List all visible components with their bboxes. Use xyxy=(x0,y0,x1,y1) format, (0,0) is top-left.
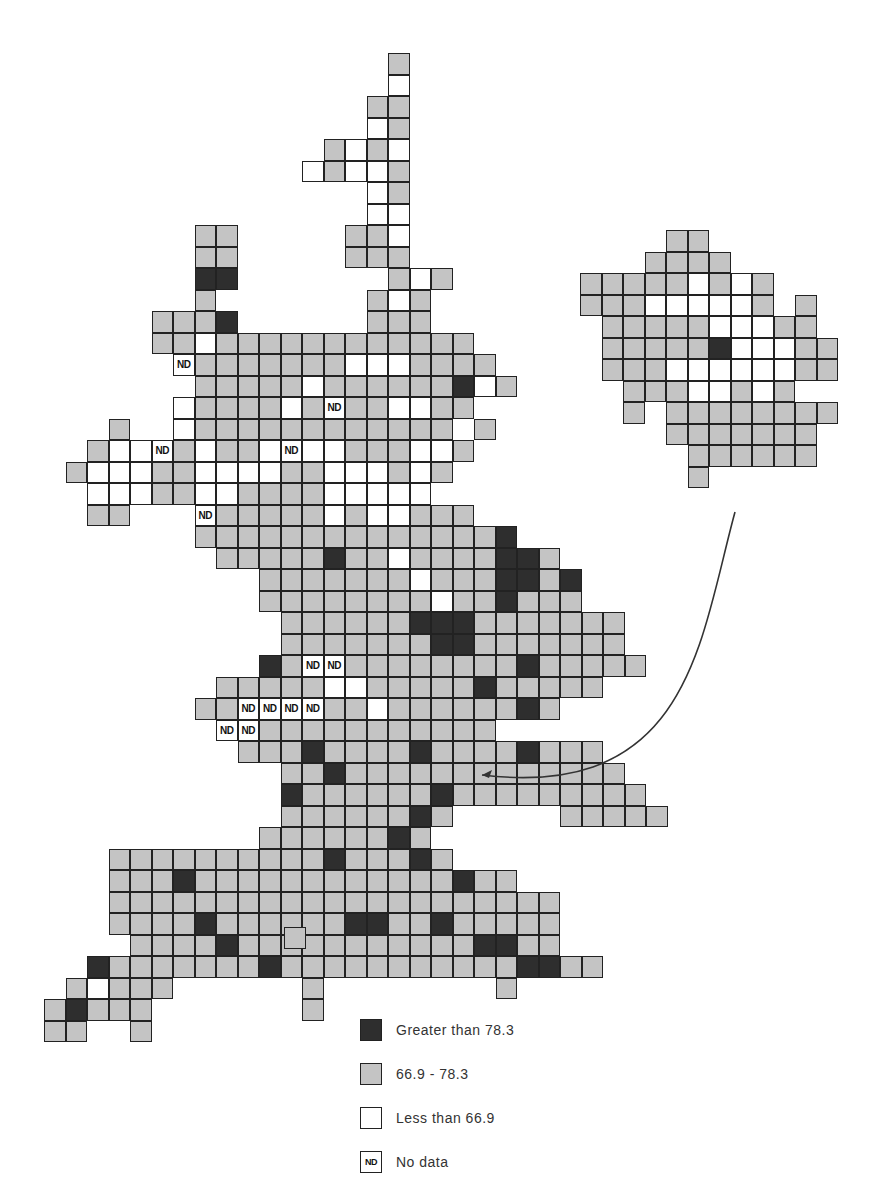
map-cell xyxy=(367,139,389,161)
map-cell xyxy=(496,741,518,763)
map-cell xyxy=(582,806,604,828)
map-cell xyxy=(474,526,496,548)
map-cell xyxy=(367,333,389,355)
map-cell xyxy=(281,419,303,441)
map-cell xyxy=(795,445,817,467)
map-cell xyxy=(259,720,281,742)
map-cell xyxy=(474,354,496,376)
map-cell xyxy=(388,956,410,978)
map-cell xyxy=(388,182,410,204)
map-cell xyxy=(173,440,195,462)
map-cell xyxy=(474,634,496,656)
map-cell xyxy=(87,462,109,484)
map-cell xyxy=(302,999,324,1021)
map-cell xyxy=(645,359,667,381)
map-cell xyxy=(410,741,432,763)
map-cell xyxy=(388,763,410,785)
map-cell xyxy=(731,424,753,446)
map-cell xyxy=(367,462,389,484)
map-cell xyxy=(496,526,518,548)
map-cell xyxy=(602,273,624,295)
map-cell xyxy=(431,440,453,462)
map-cell xyxy=(774,381,796,403)
map-cell xyxy=(539,763,561,785)
no-data-cell: ND xyxy=(302,698,324,720)
map-cell xyxy=(388,505,410,527)
map-cell xyxy=(302,720,324,742)
map-cell xyxy=(625,784,647,806)
map-cell xyxy=(87,440,109,462)
map-cell xyxy=(388,784,410,806)
map-cell xyxy=(367,182,389,204)
map-cell xyxy=(623,273,645,295)
map-cell xyxy=(66,462,88,484)
map-cell xyxy=(367,376,389,398)
legend-item-less: Less than 66.9 xyxy=(360,1096,514,1140)
map-cell xyxy=(302,440,324,462)
map-cell xyxy=(302,397,324,419)
map-cell xyxy=(388,96,410,118)
map-cell xyxy=(560,591,582,613)
map-cell xyxy=(623,402,645,424)
map-cell xyxy=(688,467,710,489)
map-cell xyxy=(388,827,410,849)
map-cell xyxy=(216,870,238,892)
map-cell xyxy=(560,741,582,763)
map-cell xyxy=(431,505,453,527)
map-cell xyxy=(582,612,604,634)
map-cell xyxy=(302,354,324,376)
map-cell xyxy=(281,870,303,892)
map-cell xyxy=(152,462,174,484)
map-cell xyxy=(345,440,367,462)
map-cell xyxy=(44,1021,66,1043)
map-cell xyxy=(367,827,389,849)
map-cell xyxy=(367,677,389,699)
map-cell xyxy=(496,655,518,677)
map-cell xyxy=(216,333,238,355)
map-cell xyxy=(474,569,496,591)
map-cell xyxy=(474,677,496,699)
map-cell xyxy=(453,720,475,742)
map-cell xyxy=(367,956,389,978)
map-cell xyxy=(238,956,260,978)
map-cell xyxy=(410,397,432,419)
map-cell xyxy=(560,763,582,785)
map-cell xyxy=(238,935,260,957)
map-cell xyxy=(281,849,303,871)
map-cell xyxy=(453,548,475,570)
map-cell xyxy=(410,612,432,634)
map-cell xyxy=(410,440,432,462)
map-cell xyxy=(496,612,518,634)
map-cell xyxy=(623,359,645,381)
map-cell xyxy=(474,655,496,677)
map-cell xyxy=(774,338,796,360)
map-cell xyxy=(216,849,238,871)
map-cell xyxy=(496,634,518,656)
map-cell xyxy=(474,913,496,935)
map-cell xyxy=(324,333,346,355)
map-cell xyxy=(152,956,174,978)
map-cell xyxy=(410,849,432,871)
map-cell xyxy=(302,591,324,613)
legend-label: 66.9 - 78.3 xyxy=(396,1066,468,1082)
map-cell xyxy=(367,655,389,677)
map-cell xyxy=(388,526,410,548)
map-cell xyxy=(152,913,174,935)
map-cell xyxy=(367,612,389,634)
map-cell xyxy=(66,999,88,1021)
map-cell xyxy=(238,483,260,505)
map-cell xyxy=(560,569,582,591)
map-cell xyxy=(709,359,731,381)
map-cell xyxy=(367,763,389,785)
map-cell xyxy=(302,419,324,441)
map-cell xyxy=(582,634,604,656)
map-cell xyxy=(130,440,152,462)
map-cell xyxy=(795,359,817,381)
map-cell xyxy=(496,548,518,570)
map-cell xyxy=(752,295,774,317)
map-cell xyxy=(66,1021,88,1043)
map-cell xyxy=(517,698,539,720)
map-cell xyxy=(367,548,389,570)
map-cell xyxy=(388,849,410,871)
map-cell xyxy=(388,53,410,75)
